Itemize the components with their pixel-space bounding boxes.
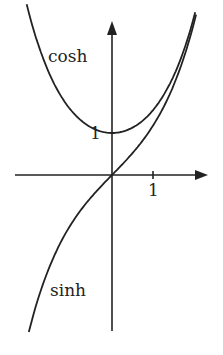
sinh-label: sinh <box>50 282 86 299</box>
y-tick-label-1: 1 <box>90 125 101 142</box>
hyperbolic-chart <box>0 0 223 355</box>
cosh-label: cosh <box>48 48 87 65</box>
x-axis-arrow-icon <box>195 170 208 180</box>
x-tick-label-1: 1 <box>148 182 159 199</box>
y-axis-arrow-icon <box>107 21 117 35</box>
cosh-curve <box>27 4 196 133</box>
